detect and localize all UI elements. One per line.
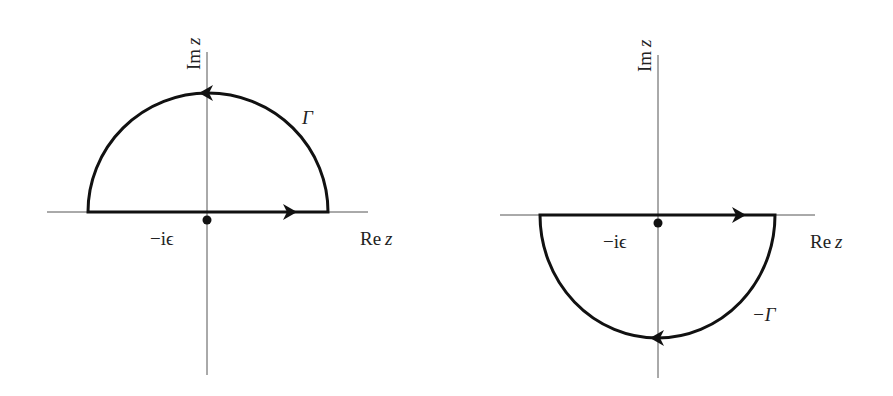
panel-lower-contour: −iϵ Rez Imz −Γ <box>500 39 843 378</box>
pole-marker <box>203 216 212 225</box>
imaginary-axis-label: Imz <box>634 39 655 72</box>
contour-label: Γ <box>301 107 314 128</box>
pole-label: −iϵ <box>603 231 627 252</box>
real-axis-label: Rez <box>810 231 843 252</box>
real-axis-label: Rez <box>360 228 393 249</box>
pole-label: −iϵ <box>150 228 174 249</box>
contour-diagram-canvas: −iϵ Rez Imz Γ −iϵ Rez Imz −Γ <box>0 0 893 396</box>
panel-upper-contour: −iϵ Rez Imz Γ <box>47 37 393 375</box>
contour-label: −Γ <box>752 304 777 325</box>
imaginary-axis-label: Imz <box>183 37 204 70</box>
pole-marker <box>654 219 663 228</box>
contour-gamma-path <box>88 93 328 212</box>
